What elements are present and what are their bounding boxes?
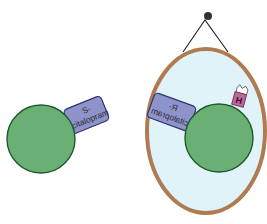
enantiomer-mirror-diagram: S- citalopram R- citalopram H [0,0,267,224]
r-citalopram-sphere [185,104,253,172]
nail-icon [204,12,212,20]
s-citalopram-group: S- citalopram [7,95,111,173]
mirror: R- citalopram H [147,49,265,213]
s-citalopram-sphere [7,105,75,173]
mirror-hanger [183,12,228,52]
